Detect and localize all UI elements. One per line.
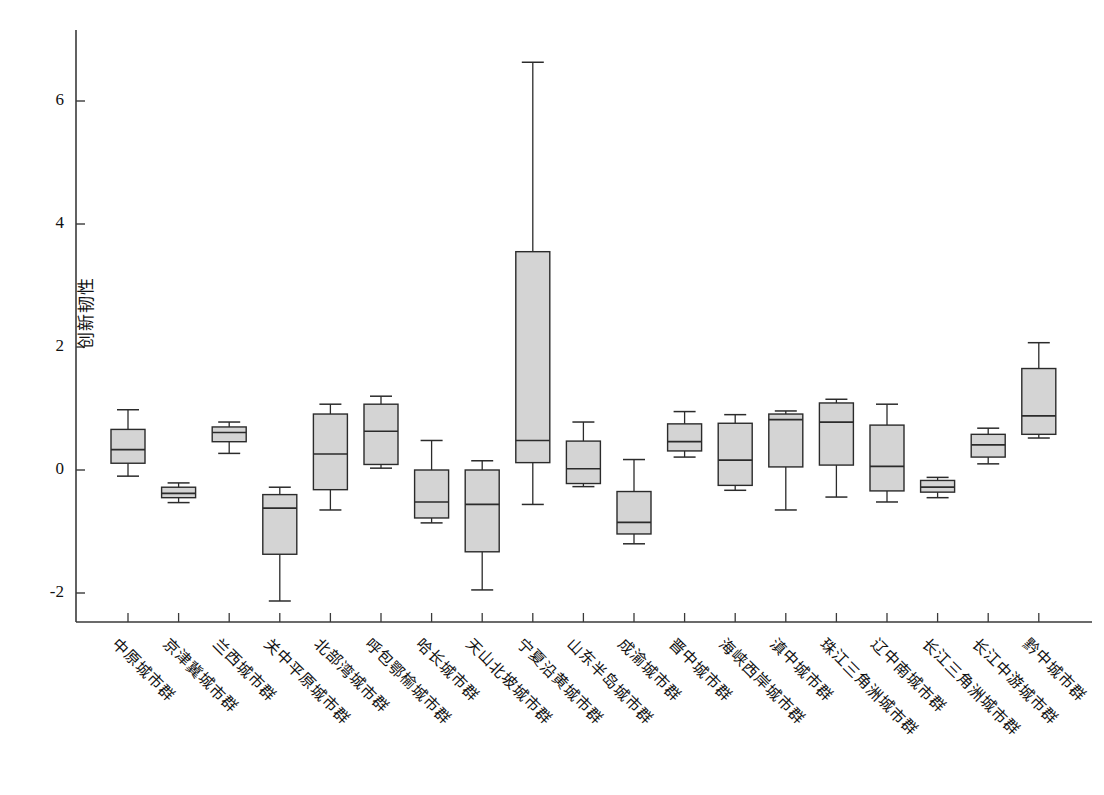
box-iqr: [465, 470, 499, 552]
box-iqr: [921, 480, 955, 492]
box-plot-item[interactable]: [769, 411, 803, 510]
box-iqr: [617, 492, 651, 534]
box-plot-item[interactable]: [162, 483, 196, 503]
box-iqr: [971, 434, 1005, 457]
box-plot-item[interactable]: [364, 396, 398, 468]
box-iqr: [313, 414, 347, 490]
box-plot-item[interactable]: [212, 422, 246, 453]
box-iqr: [870, 425, 904, 491]
box-plot-item[interactable]: [718, 415, 752, 491]
box-plot-item[interactable]: [668, 412, 702, 458]
box-iqr: [566, 441, 600, 483]
box-iqr: [111, 429, 145, 463]
box-iqr: [668, 424, 702, 451]
box-plot-item[interactable]: [819, 399, 853, 497]
box-plot-item[interactable]: [111, 410, 145, 476]
box-plot-item[interactable]: [415, 440, 449, 522]
y-axis-label: 创新韧性: [72, 243, 97, 383]
box-plot-item[interactable]: [516, 62, 550, 504]
box-plot-chart: 创新韧性 中原城市群京津冀城市群兰西城市群关中平原城市群北部湾城市群呼包鄂榆城市…: [0, 0, 1104, 795]
x-axis-ticks: [128, 613, 1039, 622]
box-iqr: [212, 427, 246, 442]
plot-area: [0, 0, 1104, 795]
y-tick-label: 4: [34, 213, 64, 233]
box-iqr: [263, 495, 297, 555]
box-plot-item[interactable]: [971, 428, 1005, 464]
box-plot-item[interactable]: [870, 404, 904, 502]
box-iqr: [364, 404, 398, 464]
box-plot-item[interactable]: [921, 477, 955, 497]
y-tick-label: 6: [34, 90, 64, 110]
box-iqr: [819, 403, 853, 465]
box-plot-item[interactable]: [1022, 343, 1056, 438]
box-plot-item[interactable]: [617, 460, 651, 544]
box-plot-item[interactable]: [313, 404, 347, 510]
box-plot-item[interactable]: [566, 422, 600, 487]
box-iqr: [516, 252, 550, 463]
y-tick-label: 2: [34, 336, 64, 356]
box-iqr: [718, 423, 752, 485]
box-plot-item[interactable]: [263, 487, 297, 601]
y-tick-label: -2: [34, 582, 64, 602]
box-iqr: [1022, 369, 1056, 435]
box-iqr: [162, 487, 196, 497]
box-iqr: [415, 470, 449, 518]
box-plot-item[interactable]: [465, 461, 499, 590]
box-iqr: [769, 414, 803, 467]
axes: [76, 30, 1092, 622]
y-tick-label: 0: [34, 459, 64, 479]
